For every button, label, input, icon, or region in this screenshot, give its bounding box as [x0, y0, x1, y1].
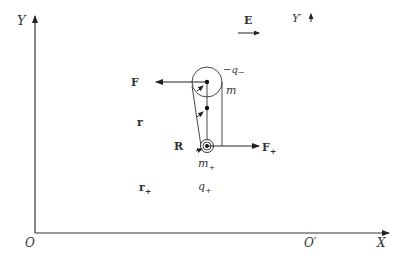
positive-mass-label: m+ — [198, 157, 215, 172]
negative-mass-label: m — [226, 84, 236, 97]
r-plus-vector-arrow-icon — [196, 149, 202, 151]
r-plus-vector-label: r+ — [139, 181, 152, 196]
r-vector-arrow-icon — [197, 86, 203, 91]
R-vector-label: R — [174, 140, 184, 153]
negative-charge-label: −q− — [223, 64, 244, 77]
dipole-diagram: Y O O′ X Y′ E F F+ −q− m m+ q+ r r+ R — [0, 0, 403, 259]
force-f-label: F — [131, 76, 139, 89]
y-prime-label: Y′ — [292, 12, 302, 25]
center-of-mass-dot — [205, 106, 209, 110]
force-f-plus-label: F+ — [262, 141, 277, 156]
com-vector-arrow-icon — [197, 112, 203, 117]
field-e-label: E — [244, 14, 252, 27]
origin-prime-label: O′ — [304, 236, 317, 250]
origin-label: O — [25, 236, 35, 250]
r-vector-label: r — [137, 116, 143, 129]
positive-charge-label: q+ — [198, 180, 212, 195]
x-axis-label: X — [376, 236, 386, 250]
y-axis-label: Y — [17, 13, 27, 28]
